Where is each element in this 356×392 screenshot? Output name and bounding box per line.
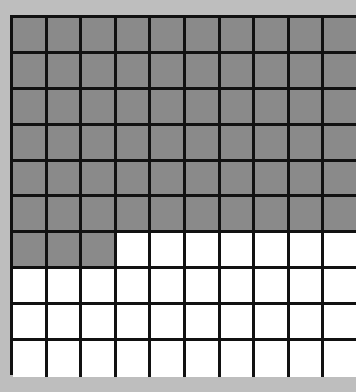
unshaded-cell (186, 233, 221, 269)
unshaded-cell (255, 269, 290, 305)
shaded-cell (82, 90, 117, 126)
shaded-cell (290, 90, 325, 126)
shaded-cell (82, 197, 117, 233)
shaded-cell (151, 18, 186, 54)
shaded-cell (117, 18, 152, 54)
shaded-cell (48, 197, 83, 233)
shaded-cell (255, 54, 290, 90)
shaded-cell (117, 126, 152, 162)
shaded-cell (151, 162, 186, 198)
shaded-cell (117, 162, 152, 198)
shaded-cell (82, 233, 117, 269)
unshaded-cell (255, 341, 290, 377)
unshaded-cell (324, 233, 356, 269)
shaded-cell (151, 197, 186, 233)
shaded-cell (290, 54, 325, 90)
shaded-cell (117, 54, 152, 90)
unshaded-cell (324, 341, 356, 377)
shaded-cell (48, 18, 83, 54)
unshaded-cell (82, 305, 117, 341)
shaded-cell (13, 126, 48, 162)
shaded-cell (290, 126, 325, 162)
shaded-cell (255, 162, 290, 198)
unshaded-cell (290, 341, 325, 377)
shaded-cell (48, 233, 83, 269)
shaded-cell (324, 54, 356, 90)
hundred-grid (10, 15, 356, 375)
unshaded-cell (186, 341, 221, 377)
shaded-cell (13, 90, 48, 126)
unshaded-cell (151, 269, 186, 305)
shaded-cell (13, 233, 48, 269)
shaded-cell (186, 162, 221, 198)
shaded-cell (117, 197, 152, 233)
shaded-cell (82, 126, 117, 162)
unshaded-cell (117, 305, 152, 341)
unshaded-cell (186, 305, 221, 341)
unshaded-cell (151, 341, 186, 377)
unshaded-cell (48, 341, 83, 377)
shaded-cell (221, 197, 256, 233)
unshaded-cell (324, 305, 356, 341)
shaded-cell (324, 197, 356, 233)
shaded-cell (13, 197, 48, 233)
unshaded-cell (255, 233, 290, 269)
shaded-cell (151, 126, 186, 162)
unshaded-cell (221, 341, 256, 377)
unshaded-cell (117, 341, 152, 377)
shaded-cell (186, 90, 221, 126)
canvas (0, 0, 356, 392)
shaded-cell (82, 162, 117, 198)
shaded-cell (290, 18, 325, 54)
unshaded-cell (117, 269, 152, 305)
shaded-cell (255, 126, 290, 162)
unshaded-cell (13, 341, 48, 377)
shaded-cell (186, 197, 221, 233)
shaded-cell (255, 197, 290, 233)
unshaded-cell (324, 269, 356, 305)
shaded-cell (324, 90, 356, 126)
unshaded-cell (290, 233, 325, 269)
unshaded-cell (13, 305, 48, 341)
shaded-cell (324, 126, 356, 162)
shaded-cell (221, 90, 256, 126)
unshaded-cell (117, 233, 152, 269)
shaded-cell (13, 18, 48, 54)
unshaded-cell (290, 305, 325, 341)
shaded-cell (221, 18, 256, 54)
shaded-cell (186, 18, 221, 54)
shaded-cell (117, 90, 152, 126)
unshaded-cell (255, 305, 290, 341)
shaded-cell (48, 90, 83, 126)
unshaded-cell (221, 233, 256, 269)
unshaded-cell (221, 269, 256, 305)
unshaded-cell (48, 269, 83, 305)
shaded-cell (151, 90, 186, 126)
unshaded-cell (82, 269, 117, 305)
shaded-cell (82, 18, 117, 54)
shaded-cell (255, 18, 290, 54)
shaded-cell (221, 54, 256, 90)
unshaded-cell (151, 305, 186, 341)
shaded-cell (324, 162, 356, 198)
shaded-cell (186, 54, 221, 90)
unshaded-cell (186, 269, 221, 305)
unshaded-cell (48, 305, 83, 341)
shaded-cell (290, 197, 325, 233)
shaded-cell (186, 126, 221, 162)
unshaded-cell (82, 341, 117, 377)
shaded-cell (151, 54, 186, 90)
unshaded-cell (290, 269, 325, 305)
shaded-cell (48, 126, 83, 162)
unshaded-cell (13, 269, 48, 305)
shaded-cell (48, 54, 83, 90)
shaded-cell (13, 54, 48, 90)
shaded-cell (82, 54, 117, 90)
shaded-cell (13, 162, 48, 198)
shaded-cell (290, 162, 325, 198)
shaded-cell (221, 162, 256, 198)
unshaded-cell (151, 233, 186, 269)
shaded-cell (324, 18, 356, 54)
shaded-cell (255, 90, 290, 126)
unshaded-cell (221, 305, 256, 341)
